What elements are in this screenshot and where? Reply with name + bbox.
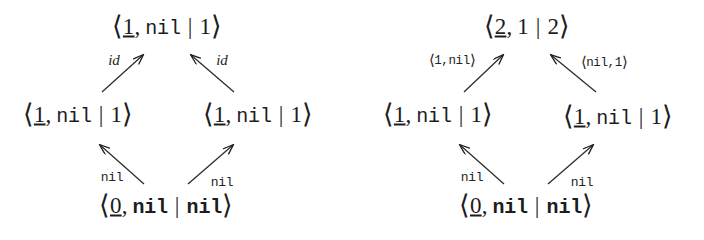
edge-label-bottom-to-midleft: nil xyxy=(461,170,484,185)
node-third-value: 1 xyxy=(470,102,482,127)
node-close-bracket: ⟩ xyxy=(222,190,233,220)
node-second-value: nil xyxy=(416,105,451,128)
node-first-value: 1 xyxy=(214,102,226,127)
node-third-value: 1 xyxy=(110,102,122,127)
node-divider: | xyxy=(187,14,194,39)
edge-label-midleft-to-top: id xyxy=(108,52,120,69)
node-third-value: 1 xyxy=(199,14,211,39)
diagram-left: ⟨1, nil | 1⟩ ⟨1, nil | 1⟩ ⟨1, nil | 1⟩ ⟨… xyxy=(0,0,352,240)
edge-label-bottom-to-midleft: nil xyxy=(101,170,124,185)
node-first-value: 1 xyxy=(574,104,586,129)
node-mid-right: ⟨1, nil | 1⟩ xyxy=(203,101,314,128)
node-second-value: nil xyxy=(492,196,527,219)
node-open-bracket: ⟨ xyxy=(112,11,123,41)
edge-label-text: 1,nil xyxy=(434,54,470,68)
node-top: ⟨1, nil | 1⟩ xyxy=(112,13,223,40)
node-open-bracket: ⟨ xyxy=(203,99,214,129)
node-second-value: nil xyxy=(236,105,271,128)
node-bottom: ⟨0, nil | nil⟩ xyxy=(459,192,593,219)
node-close-bracket: ⟩ xyxy=(211,11,222,41)
figure-canvas: ⟨1, nil | 1⟩ ⟨1, nil | 1⟩ ⟨1, nil | 1⟩ ⟨… xyxy=(0,0,704,240)
edge-label-close-bracket: ⟩ xyxy=(470,52,476,68)
node-first-value: 0 xyxy=(110,193,122,218)
node-separator: , xyxy=(135,14,141,39)
node-close-bracket: ⟩ xyxy=(662,101,673,131)
node-separator: , xyxy=(122,193,128,218)
node-first-value: 2 xyxy=(495,14,507,39)
node-separator: , xyxy=(586,104,592,129)
node-open-bracket: ⟨ xyxy=(383,99,394,129)
node-second-value: nil xyxy=(56,105,91,128)
node-top: ⟨2, 1 | 2⟩ xyxy=(484,13,571,40)
node-close-bracket: ⟩ xyxy=(582,190,593,220)
node-mid-left: ⟨1, nil | 1⟩ xyxy=(383,101,494,128)
node-third-value: 1 xyxy=(290,102,302,127)
node-second-value: nil xyxy=(596,107,631,130)
node-close-bracket: ⟩ xyxy=(559,11,570,41)
node-separator: , xyxy=(226,102,232,127)
diagram-right: ⟨2, 1 | 2⟩ ⟨1, nil | 1⟩ ⟨1, nil | 1⟩ ⟨0,… xyxy=(352,0,704,240)
node-first-value: 1 xyxy=(123,14,135,39)
node-divider: | xyxy=(535,14,542,39)
node-divider: | xyxy=(638,104,645,129)
node-separator: , xyxy=(406,102,412,127)
node-divider: | xyxy=(278,102,285,127)
node-third-value: nil xyxy=(187,196,222,219)
node-third-value: nil xyxy=(547,196,582,219)
edge-label-midleft-to-top: ⟨1,nil⟩ xyxy=(429,51,476,69)
node-separator: , xyxy=(482,193,488,218)
node-bottom: ⟨0, nil | nil⟩ xyxy=(99,192,233,219)
node-mid-right: ⟨1, nil | 1⟩ xyxy=(563,103,674,130)
edge-label-bottom-to-midright: nil xyxy=(571,175,594,190)
node-close-bracket: ⟩ xyxy=(302,99,313,129)
node-first-value: 1 xyxy=(34,102,46,127)
edge-label-text: nil,1 xyxy=(586,56,622,70)
node-close-bracket: ⟩ xyxy=(122,99,133,129)
node-separator: , xyxy=(506,14,512,39)
node-open-bracket: ⟨ xyxy=(563,101,574,131)
node-mid-left: ⟨1, nil | 1⟩ xyxy=(23,101,134,128)
edge-label-midright-to-top: ⟨nil,1⟩ xyxy=(581,53,628,71)
node-divider: | xyxy=(174,193,181,218)
node-divider: | xyxy=(98,102,105,127)
node-first-value: 1 xyxy=(394,102,406,127)
node-first-value: 0 xyxy=(470,193,482,218)
node-open-bracket: ⟨ xyxy=(484,11,495,41)
edge-label-close-bracket: ⟩ xyxy=(622,54,628,70)
node-second-value: 1 xyxy=(517,14,529,39)
node-open-bracket: ⟨ xyxy=(459,190,470,220)
node-close-bracket: ⟩ xyxy=(482,99,493,129)
node-divider: | xyxy=(534,193,541,218)
node-third-value: 2 xyxy=(548,14,560,39)
edge-label-midright-to-top: id xyxy=(216,52,228,69)
node-open-bracket: ⟨ xyxy=(23,99,34,129)
node-divider: | xyxy=(458,102,465,127)
node-second-value: nil xyxy=(132,196,167,219)
node-separator: , xyxy=(46,102,52,127)
node-open-bracket: ⟨ xyxy=(99,190,110,220)
node-second-value: nil xyxy=(145,17,180,40)
edge-label-bottom-to-midright: nil xyxy=(211,175,234,190)
node-third-value: 1 xyxy=(650,104,662,129)
